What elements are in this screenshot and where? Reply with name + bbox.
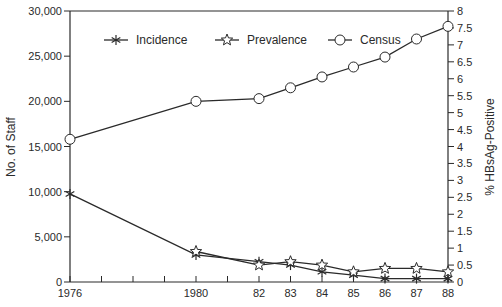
right-tick-label: 4 [457,141,463,153]
star-marker-icon [221,34,232,45]
series-layer [65,21,454,283]
x-tick-label: 1976 [58,287,82,299]
left-y-axis: 05,00010,00015,00020,00025,00030,000 [28,5,70,288]
plot-frame [70,11,448,282]
circle-marker-icon [317,72,327,82]
left-tick-label: 5,000 [34,231,62,243]
circle-marker-icon [254,94,264,104]
circle-marker-icon [65,134,75,144]
left-tick-label: 30,000 [28,5,62,17]
circle-marker-icon [443,21,453,31]
asterisk-marker-icon [66,189,75,199]
legend: IncidencePrevalenceCensus [104,33,401,47]
x-tick-label: 1980 [184,287,208,299]
right-tick-label: 3.5 [457,157,472,169]
legend-entry-prevalence: Prevalence [215,33,307,47]
circle-marker-icon [349,62,359,72]
circle-marker-icon [191,96,201,106]
circle-marker-icon [412,34,422,44]
right-y-axis: 00.511.522.533.544.555.566.577.58 [448,5,472,288]
right-tick-label: 1 [457,242,463,254]
legend-entry-incidence: Incidence [104,33,188,47]
x-tick-label: 88 [442,287,454,299]
x-axis: 1976198082838485868788 [58,276,454,299]
left-tick-label: 25,000 [28,50,62,62]
right-tick-label: 3 [457,174,463,186]
x-tick-label: 87 [410,287,422,299]
circle-marker-icon [335,35,345,45]
right-tick-label: 8 [457,5,463,17]
left-tick-label: 10,000 [28,186,62,198]
x-tick-label: 85 [347,287,359,299]
right-tick-label: 7.5 [457,22,472,34]
x-tick-label: 83 [284,287,296,299]
right-tick-label: 2.5 [457,191,472,203]
chart: 05,00010,00015,00020,00025,00030,000 00.… [0,0,502,307]
circle-marker-icon [286,83,296,93]
right-tick-label: 5.5 [457,90,472,102]
right-axis-title: % HBsAg-Positive [483,98,497,196]
legend-label: Incidence [136,33,188,47]
left-axis-title: No. of Staff [4,116,18,176]
right-tick-label: 0 [457,276,463,288]
x-tick-label: 84 [316,287,328,299]
right-tick-label: 5 [457,107,463,119]
x-tick-label: 82 [253,287,265,299]
star-marker-icon [316,259,327,270]
series-incidence [66,189,453,284]
star-marker-icon [411,262,422,273]
right-tick-label: 7 [457,39,463,51]
x-tick-label: 86 [379,287,391,299]
left-tick-label: 15,000 [28,141,62,153]
legend-label: Prevalence [247,33,307,47]
legend-entry-census: Census [328,33,401,47]
star-marker-icon [379,262,390,273]
right-tick-label: 6.5 [457,56,472,68]
right-tick-label: 1.5 [457,225,472,237]
right-tick-label: 6 [457,73,463,85]
legend-label: Census [360,33,401,47]
right-tick-label: 2 [457,208,463,220]
right-tick-label: 0.5 [457,259,472,271]
left-tick-label: 20,000 [28,95,62,107]
right-tick-label: 4.5 [457,124,472,136]
circle-marker-icon [380,52,390,62]
